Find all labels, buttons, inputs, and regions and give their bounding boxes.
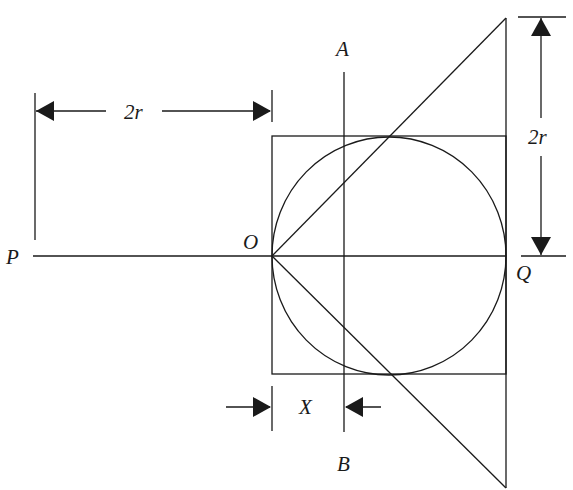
label-b: B <box>337 452 350 476</box>
arrow-x-right-icon <box>253 397 271 417</box>
label-dim-vertical: 2r <box>528 125 548 149</box>
arrow-x-left-icon <box>345 397 363 417</box>
label-q: Q <box>516 261 531 285</box>
label-p: P <box>5 245 19 269</box>
label-x: X <box>298 395 313 419</box>
label-o: O <box>243 230 258 254</box>
arrow-up-icon <box>531 18 551 36</box>
arrow-left-icon <box>36 101 54 121</box>
label-a: A <box>334 37 349 61</box>
upper-diagonal-line <box>272 18 506 256</box>
label-dim-horizontal: 2r <box>124 100 144 124</box>
lower-diagonal-line <box>272 256 506 488</box>
arrow-right-icon <box>253 101 271 121</box>
geometry-diagram: P O Q A B X 2r 2r <box>0 0 573 490</box>
arrow-down-icon <box>531 237 551 255</box>
